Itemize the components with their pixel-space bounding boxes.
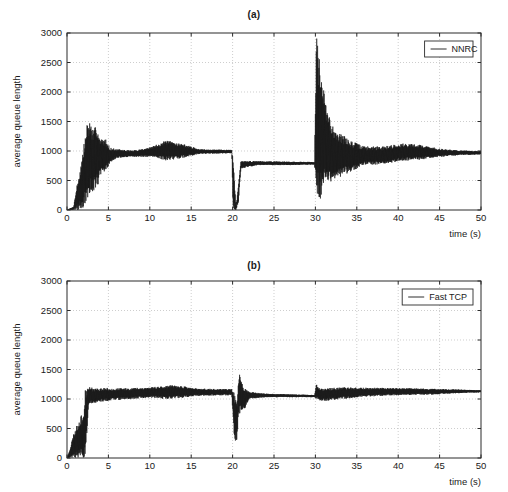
x-tick-label: 45 — [434, 212, 445, 223]
y-tick-label: 500 — [46, 423, 62, 434]
y-tick-label: 0 — [57, 452, 62, 463]
x-tick-label: 40 — [393, 460, 404, 471]
legend-entry-label: NNRC — [452, 44, 478, 54]
chart-a-plot: 0510152025303540455005001000150020002500… — [0, 0, 508, 246]
y-tick-label: 500 — [46, 175, 62, 186]
x-tick-label: 40 — [393, 212, 404, 223]
y-tick-label: 3000 — [41, 275, 62, 286]
x-tick-label: 10 — [145, 460, 156, 471]
x-tick-label: 10 — [145, 212, 156, 223]
y-tick-label: 1500 — [41, 364, 62, 375]
x-tick-label: 35 — [352, 460, 363, 471]
figure-container: (a) 051015202530354045500500100015002000… — [0, 0, 508, 492]
y-tick-label: 1000 — [41, 145, 62, 156]
x-tick-label: 15 — [186, 460, 197, 471]
y-tick-label: 1500 — [41, 116, 62, 127]
x-tick-label: 30 — [310, 460, 321, 471]
x-tick-label: 15 — [186, 212, 197, 223]
x-tick-label: 25 — [269, 212, 280, 223]
x-tick-label: 50 — [476, 460, 487, 471]
y-tick-label: 2000 — [41, 334, 62, 345]
y-tick-label: 3000 — [41, 27, 62, 38]
chart-panel-a: (a) 051015202530354045500500100015002000… — [0, 0, 508, 246]
legend-entry-label: Fast TCP — [429, 292, 467, 302]
x-tick-label: 50 — [476, 212, 487, 223]
x-axis-label: time (s) — [449, 476, 481, 487]
y-tick-label: 2500 — [41, 57, 62, 68]
y-tick-label: 2000 — [41, 86, 62, 97]
x-tick-label: 0 — [64, 212, 69, 223]
y-axis-label: average queue length — [11, 324, 22, 416]
chart-b-plot: 0510152025303540455005001000150020002500… — [0, 246, 508, 492]
legend[interactable]: NNRC — [425, 41, 478, 57]
x-tick-label: 20 — [227, 212, 238, 223]
y-tick-label: 1000 — [41, 393, 62, 404]
x-tick-label: 30 — [310, 212, 321, 223]
x-tick-label: 0 — [64, 460, 69, 471]
legend[interactable]: Fast TCP — [402, 289, 473, 305]
x-axis-label: time (s) — [449, 228, 481, 239]
x-tick-label: 45 — [434, 460, 445, 471]
x-tick-label: 35 — [352, 212, 363, 223]
y-tick-label: 0 — [57, 204, 62, 215]
x-tick-label: 20 — [227, 460, 238, 471]
x-tick-label: 5 — [106, 212, 111, 223]
x-tick-label: 5 — [106, 460, 111, 471]
y-axis-label: average queue length — [11, 76, 22, 168]
x-tick-label: 25 — [269, 460, 280, 471]
y-tick-label: 2500 — [41, 305, 62, 316]
chart-panel-b: (b) 051015202530354045500500100015002000… — [0, 246, 508, 492]
